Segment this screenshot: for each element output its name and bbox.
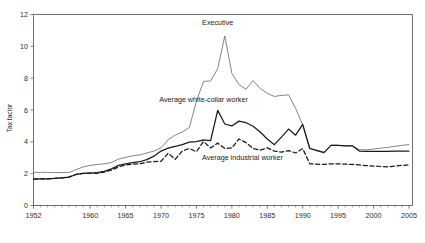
x-tick-label: 1960 [82,211,98,220]
x-tick-label: 1990 [295,211,311,220]
x-tick-label: 2000 [366,211,382,220]
series-label-executive: Executive [202,18,233,27]
chart-canvas: 1952196019651970197519801985199019952000… [0,0,425,243]
x-tick-label: 1985 [259,211,275,220]
series-label-average-white-collar-worker: Average white-collar worker [159,95,248,104]
x-tick-label: 1952 [26,211,42,220]
x-tick-label: 2005 [401,211,417,220]
x-tick-label: 1995 [330,211,346,220]
plot-background [0,0,425,243]
y-tick-label: 10 [20,42,28,51]
y-tick-label: 4 [24,137,28,146]
y-axis-title-text: Tax factor [6,103,13,132]
tax-factor-line-chart: 1952196019651970197519801985199019952000… [0,0,425,243]
x-tick-label: 1980 [224,211,240,220]
series-label-average-industrial-worker: Average industrial worker [202,153,284,162]
y-tick-label: 12 [20,10,28,19]
y-axis-title: Tax factor [6,103,13,132]
x-tick-label: 1965 [118,211,134,220]
y-tick-label: 0 [24,201,28,210]
y-tick-label: 6 [24,106,28,115]
y-tick-label: 2 [24,169,28,178]
y-tick-label: 8 [24,74,28,83]
x-tick-label: 1970 [153,211,169,220]
x-tick-label: 1975 [188,211,204,220]
